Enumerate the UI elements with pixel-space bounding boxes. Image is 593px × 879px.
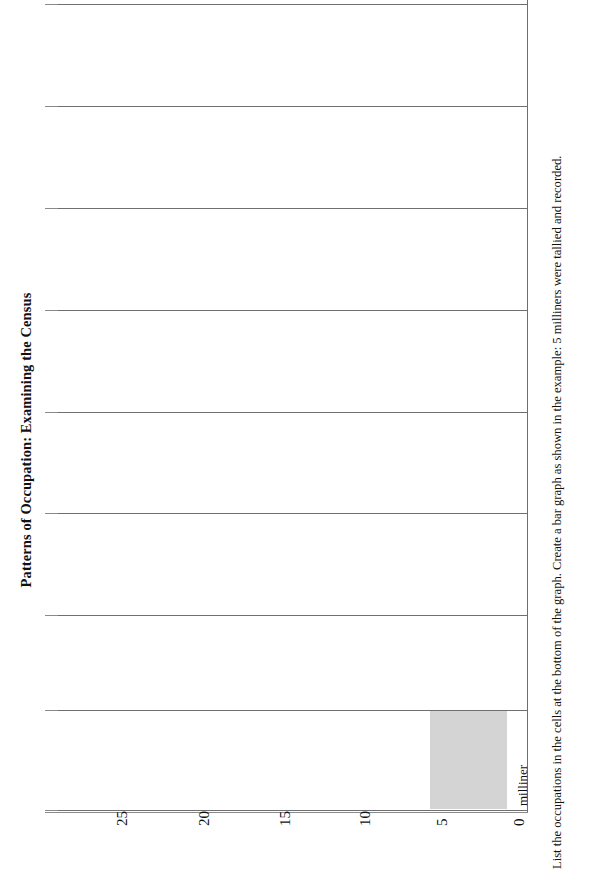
gridline <box>57 513 528 514</box>
gridline <box>57 106 528 107</box>
gridline <box>57 4 528 5</box>
bar-milliner[interactable] <box>430 711 507 809</box>
axis-tick-10: 10 <box>357 811 374 826</box>
gridline-tick <box>45 710 58 711</box>
gridline-tick <box>45 615 58 616</box>
gridline-tick <box>45 4 58 5</box>
value-axis: 2520151050 <box>57 812 528 879</box>
instructions-container: List the occupations in the cells at the… <box>533 0 593 879</box>
bar-label-milliner: milliner <box>515 765 531 806</box>
page-title-container: Patterns of Occupation: Examining the Ce… <box>0 0 52 879</box>
axis-tick-5: 5 <box>434 819 451 827</box>
page-title: Patterns of Occupation: Examining the Ce… <box>18 292 35 587</box>
gridline-tick <box>45 310 58 311</box>
axis-tick-20: 20 <box>196 811 213 826</box>
gridline-tick <box>45 412 58 413</box>
gridline <box>57 615 528 616</box>
axis-tick-25: 25 <box>114 811 131 826</box>
gridline-tick <box>45 208 58 209</box>
axis-tick-0: 0 <box>511 819 528 827</box>
gridline <box>57 412 528 413</box>
chart-frame-right-edge <box>527 0 528 812</box>
axis-tick-15: 15 <box>277 811 294 826</box>
bar-chart: milliner <box>57 0 528 812</box>
gridline-tick <box>45 513 58 514</box>
gridline <box>57 208 528 209</box>
gridline <box>57 310 528 311</box>
gridline-tick <box>45 810 58 811</box>
gridline-tick <box>45 106 58 107</box>
instructions-text: List the occupations in the cells at the… <box>547 7 568 869</box>
worksheet-page: Patterns of Occupation: Examining the Ce… <box>0 0 593 879</box>
